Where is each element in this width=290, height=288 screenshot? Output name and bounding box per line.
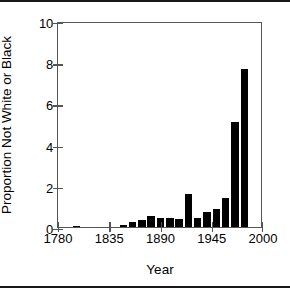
figure-canvas: 0246810 17801835189019452000 Proportion … [0,0,290,288]
bar [166,218,173,227]
bar [231,122,238,227]
x-tick-label: 1945 [197,231,226,246]
y-tick-label: 4 [46,139,53,154]
bar [213,209,220,227]
x-tick-mark-inner [109,222,110,227]
bar [185,194,192,227]
x-tick-mark-inner [262,222,263,227]
x-tick-mark-inner [58,222,59,227]
bar [241,69,248,227]
x-tick-label: 1890 [146,231,175,246]
bar [120,225,127,227]
y-tick-label: 6 [46,98,53,113]
bar [147,216,154,227]
bar [222,198,229,227]
plot-area: 0246810 17801835189019452000 [57,22,262,228]
y-tick-mark-inner [58,23,63,24]
x-tick-label: 2000 [249,231,278,246]
x-tick-label: 1780 [44,231,73,246]
bar [129,222,136,227]
y-tick-mark-inner [58,64,63,65]
x-tick-mark-inner [161,222,162,227]
bar-series [58,23,261,227]
bar [73,226,80,227]
y-tick-mark-inner [58,188,63,189]
x-tick-mark-inner [212,222,213,227]
y-tick-label: 2 [46,180,53,195]
bar [194,218,201,227]
x-tick-label: 1835 [95,231,124,246]
y-axis-title: Proportion Not White or Black [0,36,14,214]
bar [175,219,182,227]
y-tick-mark-inner [58,105,63,106]
figure-top-rule [0,0,290,2]
bar [203,212,210,227]
x-axis-title: Year [146,262,173,277]
y-tick-label: 10 [39,16,53,31]
bar [138,220,145,227]
y-tick-label: 8 [46,57,53,72]
y-tick-mark-inner [58,147,63,148]
